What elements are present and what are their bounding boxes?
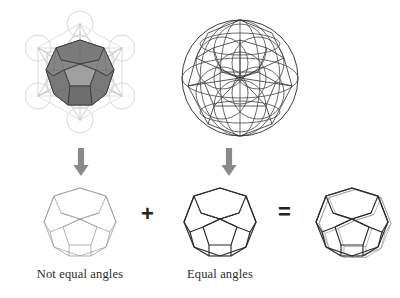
- label-not-equal-angles: Not equal angles: [29, 267, 131, 282]
- arrow-left: [73, 148, 88, 176]
- arrow-right: [221, 148, 236, 176]
- metatrons-cube-group: [25, 11, 135, 133]
- figure-canvas: + = Not equal angles Equal angles: [0, 0, 400, 298]
- shaded-dodecahedron: [46, 40, 114, 105]
- label-equal-angles: Equal angles: [184, 267, 256, 282]
- sphere-dodecahedron-group: [182, 20, 298, 136]
- equals-operator: =: [278, 201, 291, 223]
- plus-operator: +: [141, 203, 154, 225]
- dodecahedron-result: [316, 188, 391, 258]
- dodecahedron-equal-angles: [184, 188, 256, 256]
- dodecahedron-not-equal-angles: [44, 188, 116, 256]
- diagram-svg: [0, 0, 400, 298]
